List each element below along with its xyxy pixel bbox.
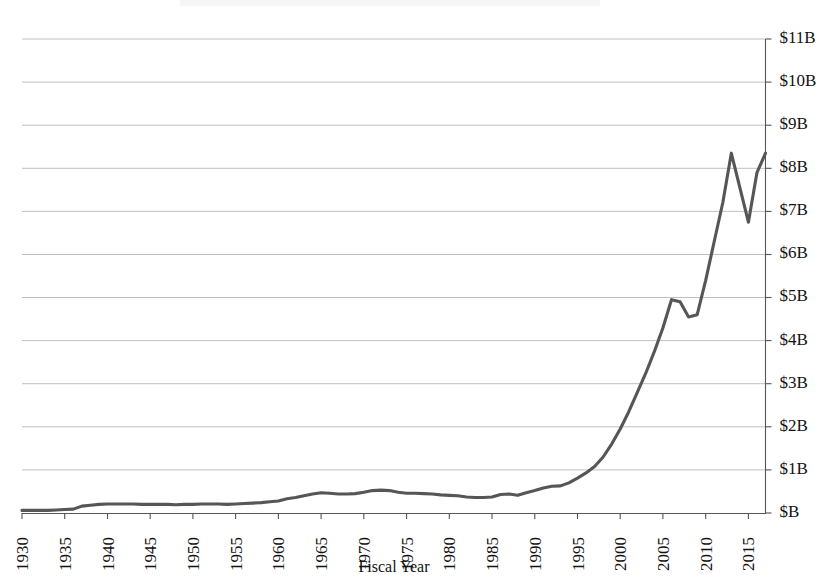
x-axis-tick-label: 1985: [483, 537, 502, 571]
y-axis-tick-label: $8B: [780, 157, 808, 176]
x-axis-tick-label: 2005: [654, 537, 673, 571]
x-axis-tick-label: 2015: [739, 537, 758, 571]
x-axis-tick-label: 1995: [569, 537, 588, 571]
y-axis-labels-group: $B$1B$2B$3B$4B$5B$6B$7B$8B$9B$10B$11B: [780, 28, 817, 521]
y-axis-tick-label: $11B: [780, 28, 816, 47]
y-axis-tick-label: $9B: [780, 114, 808, 133]
scan-artifact: [180, 0, 600, 6]
y-axis-tick-label: $4B: [780, 330, 808, 349]
y-axis-tick-label: $3B: [780, 373, 808, 392]
x-axis-tick-label: 1960: [269, 537, 288, 571]
x-axis-tick-label: 1980: [440, 537, 459, 571]
y-tick-marks-group: [766, 39, 772, 513]
y-axis-tick-label: $5B: [780, 286, 808, 305]
x-axis-tick-label: 1965: [312, 537, 331, 571]
x-axis-title: Fiscal Year: [358, 558, 430, 575]
line-chart: $B$1B$2B$3B$4B$5B$6B$7B$8B$9B$10B$11B 19…: [0, 0, 824, 582]
x-axis-tick-label: 1990: [526, 537, 545, 571]
y-axis-tick-label: $2B: [780, 416, 808, 435]
x-axis-tick-label: 1940: [99, 537, 118, 571]
data-series-line: [22, 153, 766, 510]
chart-container: $B$1B$2B$3B$4B$5B$6B$7B$8B$9B$10B$11B 19…: [0, 0, 824, 582]
y-axis-tick-label: $6B: [780, 243, 808, 262]
x-axis-tick-label: 1930: [13, 537, 32, 571]
y-axis-tick-label: $7B: [780, 200, 808, 219]
x-axis-tick-label: 2010: [697, 537, 716, 571]
y-axis-tick-label: $10B: [780, 71, 817, 90]
x-axis-tick-label: 1950: [184, 537, 203, 571]
x-axis-tick-label: 1935: [56, 537, 75, 571]
y-axis-tick-label: $B: [780, 502, 800, 521]
x-axis-tick-label: 1955: [227, 537, 246, 571]
y-axis-tick-label: $1B: [780, 459, 808, 478]
gridlines-group: [22, 39, 766, 470]
x-axis-tick-label: 2000: [611, 537, 630, 571]
x-axis-tick-label: 1945: [141, 537, 160, 571]
